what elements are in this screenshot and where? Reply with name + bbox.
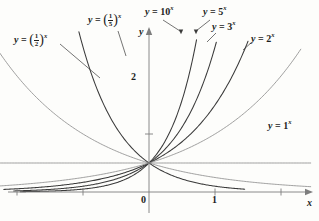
x-tick-label-1: 1 [212, 195, 217, 205]
exponential-functions-figure: y = (12)x y = (15)x y = 10x y = 5x y = 3… [0, 0, 319, 221]
curve-y-3-x [4, 41, 248, 189]
leader-fifth [118, 31, 126, 56]
x-axis-arrow [305, 189, 313, 195]
leader-half [60, 44, 100, 78]
leader-five [196, 20, 210, 31]
x-axis-label: x [307, 198, 312, 208]
curve-y-1-5-x [79, 32, 245, 189]
y-axis-arrow [146, 27, 152, 35]
curve-label-half: y = (12)x [14, 33, 47, 49]
y-tick-label-2: 2 [131, 72, 136, 82]
curve-y-1-2-x [0, 49, 311, 187]
leader-arrowhead-0 [179, 30, 183, 35]
curve-label-three: y = 3x [212, 21, 235, 32]
curve-label-fifth: y = (15)x [88, 13, 121, 29]
leader-arrowhead-1 [194, 30, 198, 35]
curve-y-5-x [14, 42, 217, 191]
y-axis-label: y [139, 27, 143, 37]
leader-three [207, 33, 216, 42]
curve-label-two: y = 2x [251, 33, 274, 44]
curve-label-one: y = 1x [268, 120, 291, 131]
curves-layer [0, 32, 311, 192]
curve-label-ten: y = 10x [145, 6, 173, 17]
curve-y-2-x [0, 49, 301, 186]
curve-label-five: y = 5x [203, 6, 226, 17]
leader-ten [163, 20, 180, 31]
x-tick-label-0: 0 [141, 195, 146, 205]
